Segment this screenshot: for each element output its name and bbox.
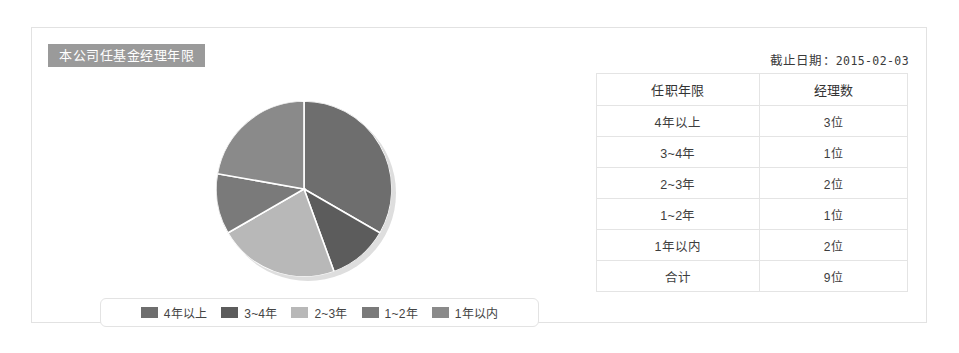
table-header-row: 任职年限 经理数 [597, 74, 908, 106]
cell-tenure: 1年以内 [597, 230, 760, 261]
pie-chart [216, 101, 398, 283]
cell-tenure: 3~4年 [597, 137, 760, 168]
legend-item[interactable]: 1年以内 [432, 304, 498, 321]
chart-pane: 4年以上 3~4年 2~3年 1~2年 1年以内 [33, 68, 595, 322]
legend-item[interactable]: 1~2年 [362, 304, 418, 321]
cell-count: 3位 [760, 106, 908, 137]
page-title: 本公司任基金经理年限 [48, 44, 205, 67]
legend-item-label: 1年以内 [455, 304, 498, 321]
table-row: 2~3年 2位 [597, 168, 908, 199]
legend-swatch-icon [141, 307, 158, 318]
legend-item[interactable]: 4年以上 [141, 304, 207, 321]
pie-slices [216, 101, 392, 277]
cell-count: 1位 [760, 137, 908, 168]
legend-swatch-icon [221, 307, 238, 318]
fund-manager-tenure-card: 本公司任基金经理年限 截止日期：2015-02-03 4年以上 3~4年 2~3… [31, 27, 927, 323]
cell-count: 2位 [760, 230, 908, 261]
table-pane: 任职年限 经理数 4年以上 3位 3~4年 1位 2~3年 2位 1 [595, 73, 927, 322]
cell-count: 1位 [760, 199, 908, 230]
cell-count: 9位 [760, 261, 908, 292]
column-header-count: 经理数 [760, 74, 908, 106]
table-row: 3~4年 1位 [597, 137, 908, 168]
table-row: 1~2年 1位 [597, 199, 908, 230]
legend-swatch-icon [291, 307, 308, 318]
pie-slice[interactable] [217, 101, 304, 189]
cell-tenure: 合计 [597, 261, 760, 292]
cutoff-date-value: 2015-02-03 [836, 54, 909, 68]
legend-item[interactable]: 3~4年 [221, 304, 277, 321]
cutoff-date: 截止日期：2015-02-03 [770, 50, 909, 69]
table-row: 1年以内 2位 [597, 230, 908, 261]
legend-swatch-icon [432, 307, 449, 318]
tenure-table: 任职年限 经理数 4年以上 3位 3~4年 1位 2~3年 2位 1 [596, 73, 908, 292]
table-row-total: 合计 9位 [597, 261, 908, 292]
pie-svg [216, 101, 392, 277]
legend-item-label: 1~2年 [385, 304, 418, 321]
legend-swatch-icon [362, 307, 379, 318]
legend-item[interactable]: 2~3年 [291, 304, 347, 321]
cutoff-date-label: 截止日期： [770, 54, 836, 68]
column-header-tenure: 任职年限 [597, 74, 760, 106]
legend-item-label: 3~4年 [244, 304, 277, 321]
cell-tenure: 2~3年 [597, 168, 760, 199]
cell-tenure: 4年以上 [597, 106, 760, 137]
cell-tenure: 1~2年 [597, 199, 760, 230]
table-row: 4年以上 3位 [597, 106, 908, 137]
chart-legend: 4年以上 3~4年 2~3年 1~2年 1年以内 [100, 298, 539, 327]
cell-count: 2位 [760, 168, 908, 199]
legend-item-label: 2~3年 [314, 304, 347, 321]
legend-item-label: 4年以上 [164, 304, 207, 321]
